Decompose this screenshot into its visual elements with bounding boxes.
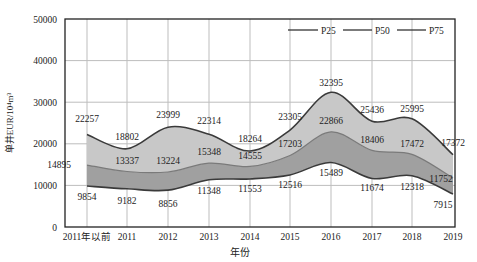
p50-value-label: 22866 <box>319 116 343 126</box>
p75-value-label: 32395 <box>319 78 343 88</box>
p75-value-label: 18264 <box>238 134 262 144</box>
legend-label-p50: P50 <box>375 26 390 36</box>
x-tick-label: 2016 <box>322 232 341 242</box>
x-tick-label: 2017 <box>363 232 382 242</box>
x-tick-label: 2012 <box>159 232 178 242</box>
legend-label-p25: P25 <box>321 26 336 36</box>
p25-value-label: 9182 <box>118 196 137 206</box>
legend-label-p75: P75 <box>429 26 444 36</box>
x-axis-label: 年份 <box>230 246 250 258</box>
p25-value-label: 9854 <box>78 192 97 202</box>
p75-value-label: 22257 <box>75 114 99 124</box>
p25-value-label: 11348 <box>197 186 221 196</box>
y-tick-label: 0 <box>52 223 57 233</box>
p50-value-label: 17203 <box>278 139 302 149</box>
y-tick-label: 50000 <box>33 15 57 25</box>
p75-value-label: 23305 <box>278 112 302 122</box>
y-tick-label: 30000 <box>33 98 57 108</box>
p25-value-label: 11553 <box>238 184 262 194</box>
p50-value-label: 13224 <box>156 156 180 166</box>
y-tick-label: 10000 <box>33 181 57 191</box>
x-tick-label: 2011 <box>118 232 137 242</box>
p50-value-label: 15348 <box>197 147 221 157</box>
p75-value-label: 25995 <box>400 104 424 114</box>
p75-value-label: 17372 <box>441 138 465 148</box>
area-chart: 2225718802239992231418264233053239525436… <box>0 0 477 262</box>
p50-value-label: 13337 <box>115 156 139 166</box>
p50-value-label: 14555 <box>238 151 262 161</box>
y-axis-label: 单井EUR/10⁴m³ <box>4 93 15 154</box>
x-tick-label: 2013 <box>200 232 219 242</box>
x-tick-label: 2011年以前 <box>63 231 112 242</box>
y-tick-label: 20000 <box>33 139 57 149</box>
x-tick-label: 2014 <box>241 232 260 242</box>
p75-value-label: 25436 <box>360 105 384 115</box>
x-tick-label: 2019 <box>444 232 463 242</box>
p75-value-label: 22314 <box>197 116 221 126</box>
p50-value-label: 18406 <box>360 135 384 145</box>
x-tick-label: 2018 <box>403 232 422 242</box>
chart-container: 2225718802239992231418264233053239525436… <box>0 0 477 262</box>
p25-value-label: 12516 <box>278 180 302 190</box>
p50-value-label: 17472 <box>400 139 424 149</box>
p75-value-label: 18802 <box>115 132 139 142</box>
p25-value-label: 11674 <box>360 183 384 193</box>
p25-value-label: 15489 <box>319 168 343 178</box>
p50-value-label: 11752 <box>429 174 453 184</box>
p25-value-label: 7915 <box>434 200 453 210</box>
p50-value-label: 14895 <box>47 160 71 170</box>
x-tick-label: 2015 <box>281 232 300 242</box>
y-tick-label: 40000 <box>33 56 57 66</box>
p25-value-label: 8856 <box>159 199 178 209</box>
p25-value-label: 12318 <box>400 182 424 192</box>
legend: P25P50P75 <box>288 26 444 36</box>
p75-value-label: 23999 <box>156 110 180 120</box>
